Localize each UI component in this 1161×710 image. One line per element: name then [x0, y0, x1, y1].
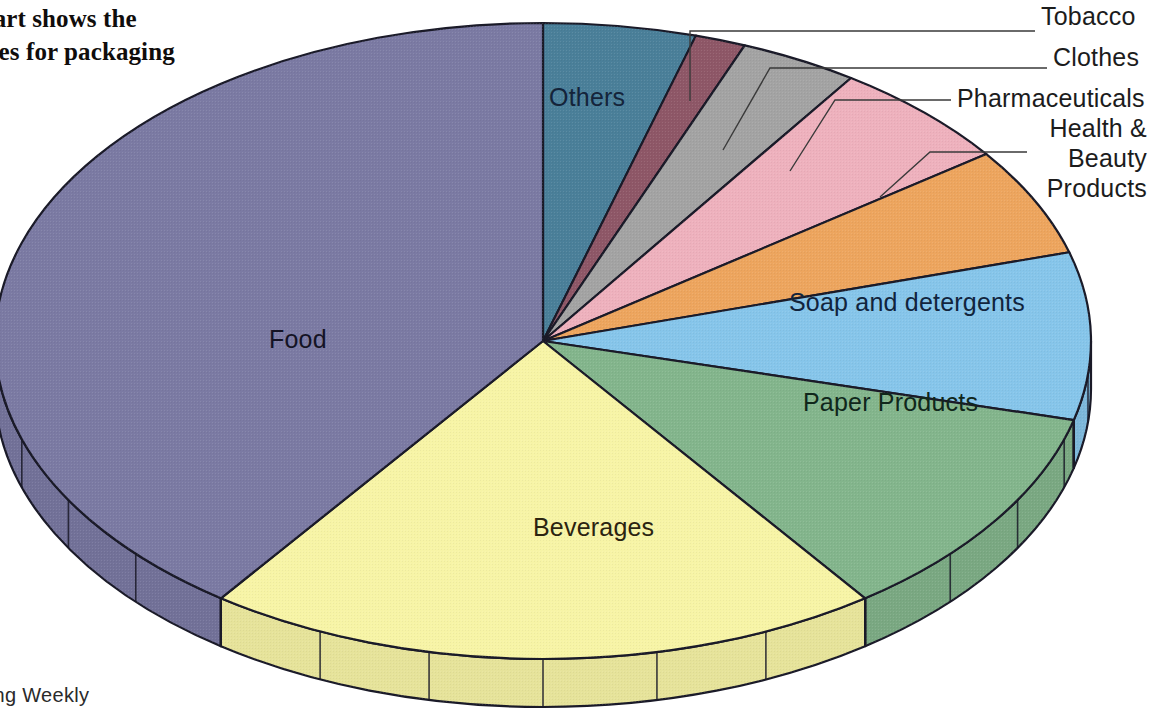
figure-caption: -chart shows the t uses for packaging K. [0, 2, 290, 101]
slice-label-tobacco: Tobacco [1041, 2, 1136, 31]
source-note: aging Weekly [0, 684, 89, 707]
slice-label-paper-products: Paper Products [803, 388, 978, 417]
pie-chart-figure: -chart shows the t uses for packaging K.… [0, 0, 1161, 710]
slice-label-clothes: Clothes [1053, 43, 1139, 72]
slice-label-pharmaceuticals: Pharmaceuticals [957, 84, 1145, 113]
slice-label-food: Food [269, 325, 327, 354]
slice-label-others: Others [549, 83, 625, 112]
slice-label-beverages: Beverages [533, 513, 654, 542]
slice-label-health-beauty-products: Health & Beauty Products [967, 113, 1147, 203]
slice-label-soap-and-detergents: Soap and detergents [789, 288, 1025, 317]
pie-top-surface [0, 23, 1091, 659]
